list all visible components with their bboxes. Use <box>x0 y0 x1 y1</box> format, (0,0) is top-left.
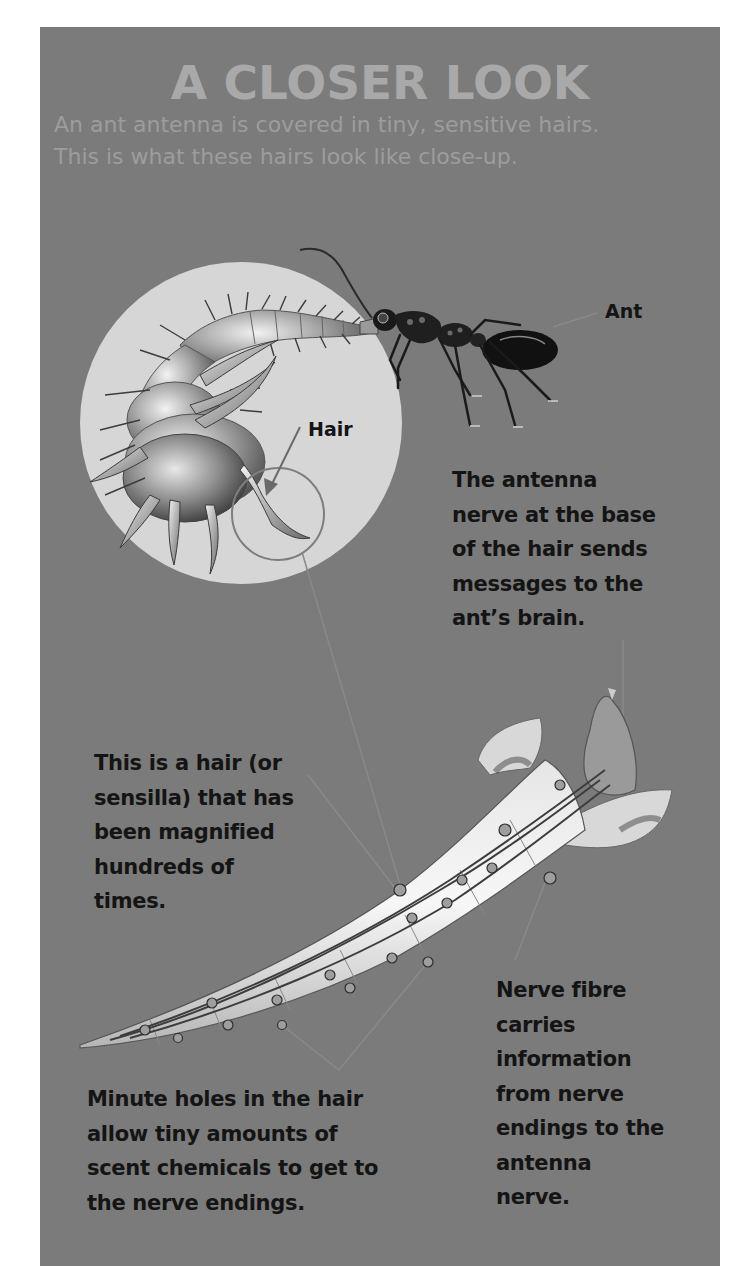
caption-line: nerve at the base <box>452 498 656 533</box>
minute-holes-caption: Minute holes in the hair allow tiny amou… <box>87 1082 378 1220</box>
caption-line: Minute holes in the hair <box>87 1082 378 1117</box>
caption-line: The antenna <box>452 463 656 498</box>
sensilla-pointer-line <box>308 775 395 888</box>
caption-line: scent chemicals to get to <box>87 1151 378 1186</box>
caption-line: endings to the <box>496 1111 664 1146</box>
caption-line: This is a hair (or <box>94 746 294 781</box>
caption-line: allow tiny amounts of <box>87 1117 378 1152</box>
nerve-fibre-pointer-line <box>515 875 548 960</box>
caption-line: ant’s brain. <box>452 601 656 636</box>
ant-pointer-line <box>553 313 597 327</box>
antenna-nerve-caption: The antenna nerve at the base of the hai… <box>452 463 656 636</box>
caption-line: nerve. <box>496 1180 664 1215</box>
hair-label: Hair <box>308 418 353 440</box>
caption-line: hundreds of <box>94 850 294 885</box>
nerve-fibre-caption: Nerve fibre carries information from ner… <box>496 973 664 1215</box>
caption-line: from nerve <box>496 1077 664 1112</box>
magnify-pointer-line <box>302 552 401 888</box>
caption-line: times. <box>94 884 294 919</box>
caption-line: antenna <box>496 1146 664 1181</box>
caption-line: been magnified <box>94 815 294 850</box>
caption-line: information <box>496 1042 664 1077</box>
sensilla-caption: This is a hair (or sensilla) that has be… <box>94 746 294 919</box>
caption-line: carries <box>496 1008 664 1043</box>
caption-line: sensilla) that has <box>94 781 294 816</box>
caption-line: messages to the <box>452 567 656 602</box>
caption-line: the nerve endings. <box>87 1186 378 1221</box>
caption-line: Nerve fibre <box>496 973 664 1008</box>
ant-label: Ant <box>605 300 642 322</box>
caption-line: of the hair sends <box>452 532 656 567</box>
